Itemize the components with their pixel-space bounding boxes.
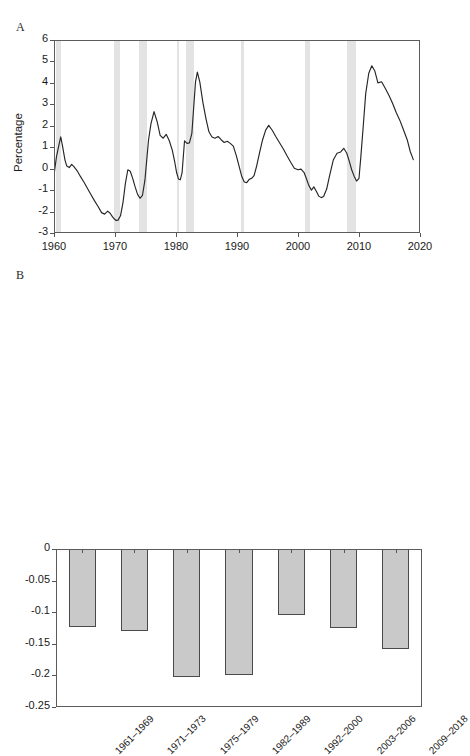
panel-a-y-tick-label: -2 xyxy=(20,204,48,216)
panel-a-y-tick-mark xyxy=(50,190,54,191)
panel-a-y-tick-label: 4 xyxy=(20,75,48,87)
panel-b-x-tick-label: 1975–1979 xyxy=(217,713,260,756)
bar xyxy=(382,549,409,649)
panel-b-x-tick-mark xyxy=(344,549,345,553)
panel-b-x-tick-label: 1992–2000 xyxy=(322,713,365,756)
panel-b-y-tick-mark xyxy=(52,675,56,676)
panel-b-plot-area xyxy=(56,549,422,707)
panel-a-line-series xyxy=(54,40,420,233)
panel-b-x-tick-mark xyxy=(187,549,188,553)
panel-b-x-tick-label: 1971–1973 xyxy=(165,713,208,756)
panel-b-x-tick-mark xyxy=(239,549,240,553)
panel-a-y-tick-label: 0 xyxy=(20,161,48,173)
bar xyxy=(278,549,305,615)
panel-b-y-tick-label: -0.1 xyxy=(14,604,50,616)
panel-b-x-tick-mark xyxy=(291,549,292,553)
panel-a-y-tick-mark xyxy=(50,212,54,213)
panel-a-y-tick-mark xyxy=(50,169,54,170)
panel-b-y-tick-mark xyxy=(52,549,56,550)
panel-b: B 0-0.05-0.1-0.15-0.2-0.25 1961–19691971… xyxy=(0,262,437,523)
panel-b-y-tick-mark xyxy=(52,581,56,582)
panel-a-x-tick-mark xyxy=(298,233,299,237)
panel-a-x-tick-mark xyxy=(54,233,55,237)
bar xyxy=(121,549,148,631)
bar xyxy=(69,549,96,627)
panel-b-y-tick-mark xyxy=(52,644,56,645)
panel-a-y-tick-label: 6 xyxy=(20,32,48,44)
panel-a-x-tick-label: 1960 xyxy=(26,240,82,252)
panel-b-letter: B xyxy=(16,268,24,283)
panel-a-x-tick-mark xyxy=(420,233,421,237)
panel-a-x-tick-label: 2010 xyxy=(331,240,387,252)
panel-a-y-tick-mark xyxy=(50,126,54,127)
panel-a-y-tick-label: 1 xyxy=(20,139,48,151)
panel-a-x-tick-label: 1980 xyxy=(148,240,204,252)
panel-a-x-tick-label: 1970 xyxy=(87,240,143,252)
panel-b-x-tick-label: 2003–2006 xyxy=(374,713,417,756)
panel-b-y-tick-label: -0.2 xyxy=(14,667,50,679)
panel-b-x-tick-label: 2009–2018 xyxy=(427,713,470,756)
panel-a-y-tick-label: 2 xyxy=(20,118,48,130)
panel-b-x-tick-mark xyxy=(82,549,83,553)
panel-b-y-tick-mark xyxy=(52,707,56,708)
bar xyxy=(330,549,357,628)
panel-a-y-tick-mark xyxy=(50,104,54,105)
panel-a-x-tick-label: 2020 xyxy=(392,240,448,252)
panel-b-y-tick-label: -0.25 xyxy=(14,699,50,711)
panel-a-y-tick-mark xyxy=(50,147,54,148)
panel-b-x-tick-mark xyxy=(134,549,135,553)
panel-a-y-tick-label: -1 xyxy=(20,182,48,194)
panel-b-y-tick-label: -0.15 xyxy=(14,636,50,648)
bar xyxy=(225,549,252,675)
panel-b-x-tick-label: 1982–1989 xyxy=(270,713,313,756)
panel-a-y-tick-label: 3 xyxy=(20,96,48,108)
panel-a-y-tick-mark xyxy=(50,83,54,84)
panel-a-x-tick-label: 2000 xyxy=(270,240,326,252)
panel-b-y-tick-label: 0 xyxy=(14,541,50,553)
panel-b-y-tick-label: -0.05 xyxy=(14,573,50,585)
panel-a-y-tick-label: 5 xyxy=(20,53,48,65)
panel-a-x-tick-mark xyxy=(359,233,360,237)
panel-a-x-tick-mark xyxy=(115,233,116,237)
panel-b-x-tick-label: 1961–1969 xyxy=(113,713,156,756)
panel-a-x-tick-label: 1990 xyxy=(209,240,265,252)
panel-a-y-tick-mark xyxy=(50,61,54,62)
panel-b-y-tick-mark xyxy=(52,612,56,613)
panel-b-x-tick-mark xyxy=(396,549,397,553)
panel-a-plot-area xyxy=(54,40,420,233)
panel-a-x-tick-mark xyxy=(176,233,177,237)
panel-a-y-tick-label: -3 xyxy=(20,225,48,237)
bar xyxy=(173,549,200,677)
panel-a-x-tick-mark xyxy=(237,233,238,237)
panel-a-y-tick-mark xyxy=(50,40,54,41)
panel-a: A Percentage 6543210-1-2-3 1960197019801… xyxy=(0,0,437,268)
